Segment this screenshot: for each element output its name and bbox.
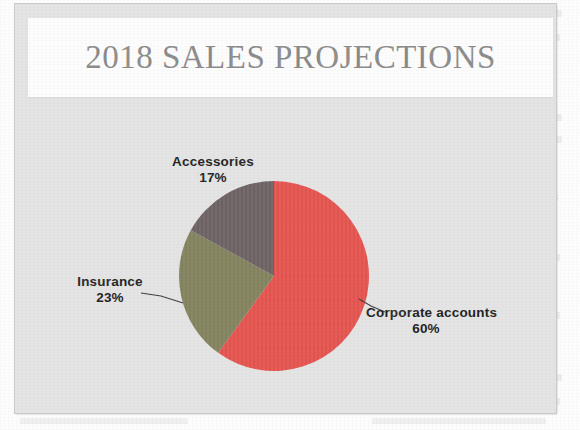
presentation-slide: 2018 SALES PROJECTIONS Accessories 17% I… bbox=[15, 4, 556, 413]
pie-label-accessories-name: Accessories bbox=[172, 154, 254, 169]
pie-chart: Accessories 17% Insurance 23% Corporate … bbox=[15, 97, 556, 413]
pie-label-corporate-accounts: Corporate accounts 60% bbox=[366, 305, 486, 337]
pie-label-insurance-name: Insurance bbox=[77, 274, 143, 289]
pie-label-accessories: Accessories 17% bbox=[148, 154, 278, 186]
page-title: 2018 SALES PROJECTIONS bbox=[85, 41, 496, 74]
pie-label-insurance: Insurance 23% bbox=[55, 274, 165, 306]
scanned-page: 2018 SALES PROJECTIONS Accessories 17% I… bbox=[0, 0, 580, 430]
pie-label-insurance-value: 23% bbox=[55, 290, 165, 306]
slide-title-banner: 2018 SALES PROJECTIONS bbox=[28, 18, 553, 97]
pie-chart-svg bbox=[15, 97, 556, 413]
pie-label-corporate-accounts-value: 60% bbox=[366, 321, 486, 337]
pie-label-corporate-accounts-name: Corporate accounts bbox=[366, 305, 497, 320]
pie-label-accessories-value: 17% bbox=[148, 170, 278, 186]
